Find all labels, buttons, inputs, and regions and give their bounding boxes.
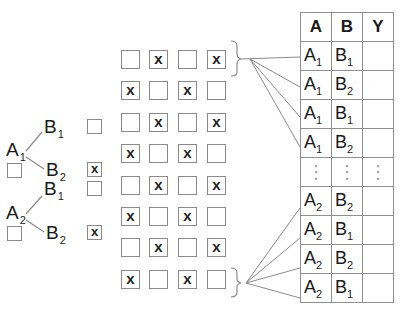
grid-cell[interactable]: x xyxy=(207,176,226,195)
cell-b: B1 xyxy=(332,42,363,71)
cell-b: B1 xyxy=(332,100,363,129)
cell-y[interactable] xyxy=(363,100,394,129)
table-body: A1B1A1B2A1B1A1B2⋮⋮⋮A2B2A2B1A2B2A2B1 xyxy=(301,42,394,303)
grid-cell[interactable]: x xyxy=(178,144,197,163)
grid-cell[interactable] xyxy=(207,270,226,289)
grid-cell[interactable]: x xyxy=(149,176,168,195)
table-row: A2B2 xyxy=(301,245,394,274)
table-row: A1B1 xyxy=(301,100,394,129)
cell-y[interactable] xyxy=(363,187,394,216)
factor-a1-checkbox[interactable] xyxy=(7,163,22,178)
cell-b: B2 xyxy=(332,245,363,274)
cell-b: B1 xyxy=(332,274,363,303)
grid-cell[interactable] xyxy=(207,144,226,163)
level-a1-b1-checkbox[interactable] xyxy=(87,119,102,134)
ellipsis-cell: ⋮ xyxy=(332,158,363,187)
level-a2-b1-label: B1 xyxy=(44,179,64,202)
table-row: A1B2 xyxy=(301,129,394,158)
header-a: A xyxy=(301,13,332,42)
grid-cell[interactable] xyxy=(149,81,168,100)
factorial-design-diagram: A1 B1 B2 x A2 B1 B2 x xxxxxxxxxxxxxxxx A… xyxy=(0,0,415,325)
level-a1-b2-checkbox[interactable]: x xyxy=(87,162,102,177)
level-a2-b1-checkbox[interactable] xyxy=(87,181,102,196)
cell-b: B2 xyxy=(332,129,363,158)
cell-b: B1 xyxy=(332,216,363,245)
grid-cell[interactable] xyxy=(121,176,140,195)
grid-cell[interactable]: x xyxy=(149,113,168,132)
grid-cell[interactable]: x xyxy=(121,144,140,163)
grid-cell[interactable] xyxy=(121,238,140,257)
table-row: A2B2 xyxy=(301,187,394,216)
cell-b: B2 xyxy=(332,187,363,216)
grid-cell[interactable]: x xyxy=(178,270,197,289)
grid-cell[interactable]: x xyxy=(207,50,226,69)
grid-cell[interactable] xyxy=(207,81,226,100)
factor-a2-checkbox[interactable] xyxy=(7,226,22,241)
ellipsis-cell: ⋮ xyxy=(363,158,394,187)
header-b: B xyxy=(332,13,363,42)
table-row: A1B1 xyxy=(301,42,394,71)
cell-y[interactable] xyxy=(363,71,394,100)
grid-cell[interactable]: x xyxy=(121,270,140,289)
cell-y[interactable] xyxy=(363,129,394,158)
cell-a: A1 xyxy=(301,129,332,158)
grid-cell[interactable] xyxy=(207,207,226,226)
grid-cell[interactable] xyxy=(121,50,140,69)
grid-cell[interactable] xyxy=(178,113,197,132)
cell-a: A2 xyxy=(301,216,332,245)
grid-cell[interactable] xyxy=(178,238,197,257)
cell-b: B2 xyxy=(332,71,363,100)
table-row: A2B1 xyxy=(301,216,394,245)
ellipsis-cell: ⋮ xyxy=(301,158,332,187)
cell-a: A2 xyxy=(301,274,332,303)
grid-cell[interactable] xyxy=(149,207,168,226)
table-ellipsis-row: ⋮⋮⋮ xyxy=(301,158,394,187)
grid-cell[interactable] xyxy=(149,270,168,289)
grid-cell[interactable]: x xyxy=(121,207,140,226)
grid-cell[interactable]: x xyxy=(149,50,168,69)
header-y: Y xyxy=(363,13,394,42)
level-a1-b1-label: B1 xyxy=(44,117,64,140)
grid-cell[interactable] xyxy=(149,144,168,163)
grid-cell[interactable]: x xyxy=(121,81,140,100)
grid-cell[interactable]: x xyxy=(178,81,197,100)
grid-cell[interactable]: x xyxy=(149,238,168,257)
cell-y[interactable] xyxy=(363,216,394,245)
grid-cell[interactable]: x xyxy=(207,238,226,257)
cell-y[interactable] xyxy=(363,274,394,303)
design-table: A B Y A1B1A1B2A1B1A1B2⋮⋮⋮A2B2A2B1A2B2A2B… xyxy=(300,12,394,303)
cell-a: A1 xyxy=(301,71,332,100)
grid-cell[interactable]: x xyxy=(178,207,197,226)
cell-y[interactable] xyxy=(363,245,394,274)
table-row: A2B1 xyxy=(301,274,394,303)
cell-a: A2 xyxy=(301,187,332,216)
grid-cell[interactable] xyxy=(178,50,197,69)
grid-cell[interactable] xyxy=(121,113,140,132)
cell-a: A1 xyxy=(301,100,332,129)
table-header-row: A B Y xyxy=(301,13,394,42)
level-a2-b2-checkbox[interactable]: x xyxy=(87,225,102,240)
factor-a2-label: A2 xyxy=(6,203,26,226)
grid-cell[interactable]: x xyxy=(207,113,226,132)
cell-y[interactable] xyxy=(363,42,394,71)
grid-cell[interactable] xyxy=(178,176,197,195)
level-a2-b2-label: B2 xyxy=(46,223,66,246)
cell-a: A1 xyxy=(301,42,332,71)
table-row: A1B2 xyxy=(301,71,394,100)
cell-a: A2 xyxy=(301,245,332,274)
factor-a1-label: A1 xyxy=(6,140,26,163)
